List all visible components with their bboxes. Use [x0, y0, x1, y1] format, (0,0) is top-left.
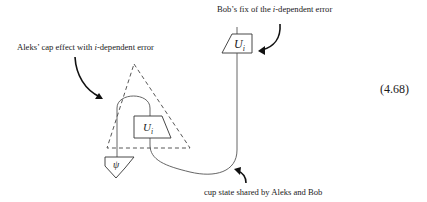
aleks-arrow	[75, 57, 100, 97]
psi-state-box	[105, 157, 134, 178]
cup-arrow-head	[234, 167, 241, 175]
aleks-cap-label-suffix: -dependent error	[97, 42, 154, 52]
bob-fix-label-prefix: Bob’s fix of the	[217, 4, 273, 14]
aleks-arrow-head	[95, 93, 103, 99]
psi-state-label: ψ	[113, 159, 120, 170]
bob-fix-label: Bob’s fix of the i-dependent error	[217, 5, 332, 14]
cup-wire	[150, 53, 237, 174]
cup-state-label: cup state shared by Aleks and Bob	[204, 188, 322, 197]
aleks-cap-label-prefix: Aleks’ cap effect with	[17, 42, 94, 52]
aleks-cap-label: Aleks’ cap effect with i-dependent error	[17, 43, 154, 52]
bob-fix-label-suffix: -dependent error	[275, 4, 332, 14]
bob-arrow-head	[258, 46, 265, 55]
diagram-canvas: Ui Ui ψ	[0, 0, 427, 202]
equation-number: (4.68)	[380, 83, 409, 95]
bob-arrow	[262, 24, 280, 50]
